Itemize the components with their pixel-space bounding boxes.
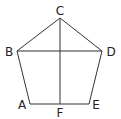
segment-cd	[60, 18, 102, 51]
label-e: E	[92, 98, 100, 112]
segment-bc	[17, 18, 60, 51]
label-b: B	[5, 45, 13, 59]
segment-de	[89, 51, 102, 104]
label-d: D	[106, 45, 115, 59]
label-c: C	[56, 4, 64, 18]
segment-ab	[17, 51, 30, 104]
label-a: A	[18, 98, 27, 112]
label-f: F	[57, 106, 64, 119]
pentagon-diagram: C B D A F E	[0, 0, 121, 119]
